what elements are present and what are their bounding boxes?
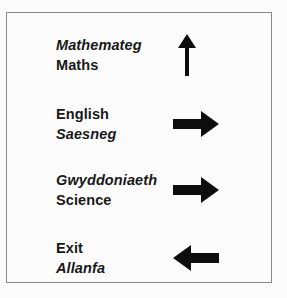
sign-row-maths-labels: Mathemateg Maths — [56, 27, 176, 83]
sign-row-maths: Mathemateg Maths — [7, 27, 271, 83]
sign-label-english-maths: Maths — [56, 55, 176, 75]
sign-row-english: English Saesneg — [7, 96, 271, 152]
arrow-right-icon — [173, 111, 219, 137]
sign-row-english-arrow — [167, 96, 253, 152]
sign-label-welsh-allanfa: Allanfa — [56, 258, 176, 278]
sign-label-english-english: English — [56, 104, 176, 124]
sign-row-science-labels: Gwyddoniaeth Science — [56, 162, 176, 218]
sign-row-list: Mathemateg Maths English Saesneg — [7, 13, 271, 282]
sign-label-welsh-saesneg: Saesneg — [56, 124, 176, 144]
bilingual-direction-sign-board: Mathemateg Maths English Saesneg — [6, 12, 272, 283]
arrow-up-icon — [177, 34, 197, 76]
sign-row-science-arrow — [167, 162, 253, 218]
sign-row-exit-arrow — [167, 230, 253, 286]
sign-label-english-exit: Exit — [56, 238, 176, 258]
sign-row-english-labels: English Saesneg — [56, 96, 176, 152]
sign-label-welsh-gwyddoniaeth: Gwyddoniaeth — [56, 170, 176, 190]
sign-row-exit-labels: Exit Allanfa — [56, 230, 176, 286]
sign-label-welsh-mathemateg: Mathemateg — [56, 35, 176, 55]
sign-row-exit: Exit Allanfa — [7, 230, 271, 286]
sign-row-science: Gwyddoniaeth Science — [7, 162, 271, 218]
arrow-right-icon — [173, 177, 219, 203]
arrow-left-icon — [173, 245, 219, 271]
sign-label-english-science: Science — [56, 190, 176, 210]
sign-row-maths-arrow — [167, 27, 257, 83]
